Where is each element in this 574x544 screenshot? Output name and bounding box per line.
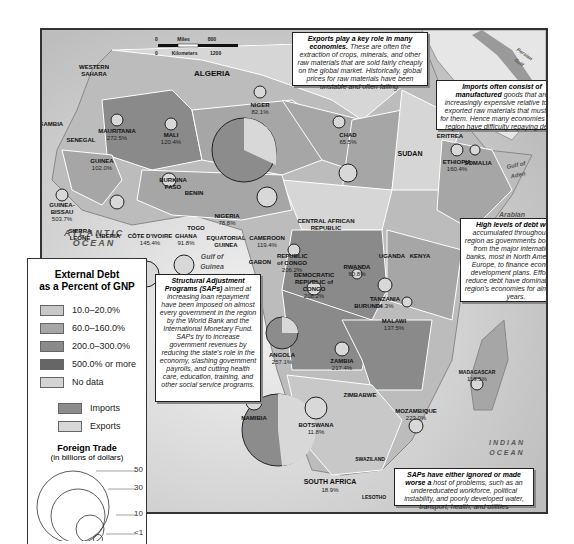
debt-value: 272.5% [98, 135, 136, 142]
country-label-zimbabwe: ZIMBABWE [344, 392, 377, 399]
swatch [40, 305, 64, 316]
debt-value: 223.0% [395, 415, 437, 422]
callout-imports: Imports often consist of manufactured go… [436, 80, 548, 130]
callout-debt-title: High levels of debt were [476, 221, 548, 228]
legend-title-line1: External Debt [28, 269, 146, 281]
legend-item-debt-2: 60.0–160.0% [40, 319, 146, 337]
country-label-lesotho: LESOTHO [362, 494, 386, 501]
legend-item-exports: Exports [58, 417, 146, 435]
legend-item-no-data: No data [40, 373, 146, 391]
country-label-namibia: NAMIBIA [241, 415, 267, 422]
country-label-angola: ANGOLA257.1% [269, 352, 295, 366]
country-label-south-africa: SOUTH AFRICA18.9% [304, 478, 357, 494]
swatch [40, 341, 64, 352]
country-label-mali: MALI120.4% [161, 132, 181, 146]
country-label-benin: BENIN [185, 190, 204, 197]
country-label-zambia: ZAMBIA217.4% [330, 358, 353, 372]
circle-size-10: 10 [134, 510, 143, 518]
country-label-equatorial-guinea: EQUATORIAL GUINEA [206, 235, 246, 249]
legend-item-imports: Imports [58, 399, 146, 417]
callout-saps: Structural Adjustment Programs (SAPs) ai… [155, 274, 261, 402]
debt-value: 102.0% [90, 165, 113, 172]
swatch [40, 359, 64, 370]
debt-value: 145.4% [128, 240, 172, 247]
country-label-rwanda: RWANDA60.8% [344, 264, 371, 278]
country-label-nigeria: NIGERIA78.8% [214, 213, 239, 227]
scale-bar-miles: 0 Miles 800 [155, 36, 216, 42]
country-label-drc: DEMOCRATIC REPUBLIC of CONGO208.2% [294, 272, 334, 300]
legend-item-debt-1: 10.0–20.0% [40, 301, 146, 319]
debt-value: 137.5% [382, 325, 406, 332]
country-label-liberia: LIBERIA [96, 233, 120, 240]
country-label-mozambique: MOZAMBIQUE223.0% [395, 408, 437, 422]
legend-item-debt-3: 200.0–300.0% [40, 337, 146, 355]
debt-value: 78.8% [214, 220, 239, 227]
debt-value: 82.1% [250, 109, 269, 116]
debt-value: 257.1% [269, 359, 295, 366]
callout-saps-body: aimed at increasing loan repayment have … [160, 285, 257, 388]
country-label-kenya: KENYA [410, 253, 430, 260]
swatch [58, 421, 82, 432]
country-label-guinea-bissau: GUINEA-BISSAU503.7% [47, 202, 77, 223]
country-label-ghana: GHANA91.8% [175, 233, 197, 247]
legend-title-line2: as a Percent of GNP [28, 281, 146, 293]
callout-problems: SAPs have either ignored or made worse a… [394, 468, 534, 506]
foreign-trade-title: Foreign Trade [28, 443, 146, 453]
debt-value: 217.4% [330, 365, 353, 372]
debt-value: 11.8% [299, 429, 334, 436]
country-label-gambia: GAMBIA [40, 121, 63, 128]
circle-size-50: 50 [134, 466, 143, 474]
callout-exports-body: These are often the extraction of crops,… [298, 43, 423, 90]
country-label-sudan: SUDAN [398, 150, 423, 157]
debt-value: 60.8% [344, 271, 371, 278]
country-label-guinea: GUINEA102.0% [90, 158, 113, 172]
country-label-sierra-leone: SIERRA LEONE [65, 228, 95, 242]
scale-km-end: 1200 [210, 50, 221, 56]
debt-value: 160.4% [443, 166, 471, 173]
country-label-senegal: SENEGAL [66, 137, 95, 144]
country-label-burkina-faso: BURKINA FASO [158, 177, 188, 191]
scale-miles-label: Miles [177, 36, 190, 42]
debt-value: 94.3% [370, 303, 400, 310]
swatch [40, 377, 64, 388]
callout-debt-body: accumulated throughout the region as gov… [465, 229, 548, 300]
country-label-cameroon: CAMEROON119.4% [249, 235, 285, 249]
circle-size-key [28, 461, 148, 541]
country-label-uganda: UGANDA [379, 253, 405, 260]
debt-value: 503.7% [47, 216, 77, 223]
country-label-algeria: ALGERIA [194, 70, 230, 77]
country-label-madagascar: MADAGASCAR119.5% [459, 369, 496, 383]
scale-km-start: 0 [155, 50, 158, 56]
legend: External Debt as a Percent of GNP 10.0–2… [27, 258, 147, 544]
country-label-republic-of-congo: REPUBLIC of CONGO206.2% [277, 253, 307, 274]
scale-bar-km: 0 Kilometers 1200 [155, 50, 221, 56]
debt-value: 65.5% [339, 139, 356, 146]
legend-title: External Debt as a Percent of GNP [28, 269, 146, 293]
circle-size-lt1: <1 [134, 529, 143, 537]
trade-pie-angola [266, 317, 298, 349]
legend-item-debt-4: 500.0% or more [40, 355, 146, 373]
scale-miles-end: 800 [208, 36, 216, 42]
circle-size-30: 30 [134, 484, 143, 492]
callout-exports: Exports play a key role in many economie… [292, 32, 428, 86]
country-label-western-sahara: WESTERN SAHARA [74, 64, 114, 78]
country-label-eritrea: ERITREA [437, 133, 463, 140]
country-label-mauritania: MAURITANIA272.5% [98, 128, 136, 142]
debt-value: 208.2% [294, 293, 334, 300]
swatch [40, 323, 64, 334]
country-label-niger: NIGER82.1% [250, 102, 269, 116]
debt-value: 18.9% [304, 486, 357, 494]
callout-debt: High levels of debt were accumulated thr… [460, 218, 548, 302]
debt-value: 120.4% [161, 139, 181, 146]
debt-value: 119.4% [249, 242, 285, 249]
debt-value: 91.8% [175, 240, 197, 247]
scale-miles-start: 0 [155, 36, 158, 42]
country-label-cote-divoire: CÔTE D'IVOIRE145.4% [128, 233, 172, 247]
country-label-central-african-republic: CENTRAL AFRICAN REPUBLIC [296, 218, 356, 232]
trade-pie-nigeria [212, 118, 276, 182]
country-label-tanzania: TANZANIA94.3% [370, 296, 400, 310]
scale-km-label: Kilometers [172, 50, 198, 56]
country-label-botswana: BOTSWANA11.8% [299, 422, 334, 436]
country-label-togo: TOGO [187, 225, 205, 232]
country-label-somalia: SOMALIA [464, 160, 492, 167]
